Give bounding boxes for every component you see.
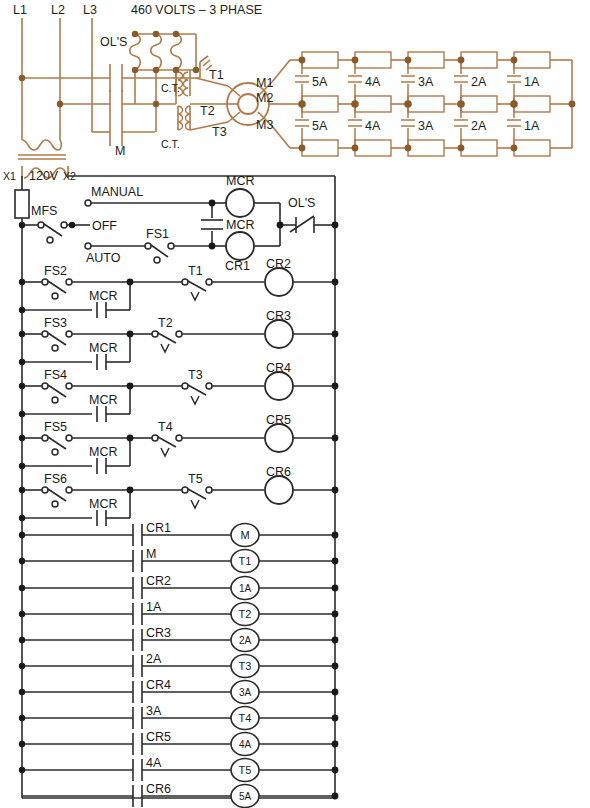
label-CR6-coil: CR6 — [266, 465, 291, 479]
label-120V: 120V — [29, 169, 59, 183]
label-M2: M2 — [256, 91, 273, 105]
label-M3: M3 — [256, 118, 273, 132]
label-out-contact-3: CR2 — [146, 574, 171, 588]
label-res-bot-5: 1A — [524, 119, 540, 133]
label-CR3-coil: CR3 — [266, 309, 291, 323]
coil-MCR — [212, 189, 280, 217]
label-res-bot-1: 5A — [312, 119, 328, 133]
label-CR5-coil: CR5 — [266, 413, 291, 427]
label-FS6: FS6 — [44, 472, 67, 486]
label-res-top-3: 3A — [418, 75, 434, 89]
label-L1: L1 — [13, 3, 27, 17]
label-seal-MCR-2: MCR — [89, 341, 117, 355]
label-MFS: MFS — [31, 204, 57, 218]
label-X1: X1 — [3, 170, 16, 182]
label-OLS-contact: OL'S — [288, 196, 315, 210]
label-T1: T1 — [209, 68, 224, 82]
label-out-contact-4: 1A — [146, 600, 162, 614]
label-out-coil-11: 5A — [239, 791, 252, 802]
label-T2: T2 — [200, 104, 215, 118]
label-out-coil-3: 1A — [239, 583, 252, 594]
label-out-contact-1: CR1 — [146, 521, 171, 535]
label-T3: T3 — [212, 125, 227, 139]
label-out-contact-7: CR4 — [146, 678, 171, 692]
label-res-top-1: 5A — [312, 75, 328, 89]
label-FS5: FS5 — [44, 420, 67, 434]
label-FS3: FS3 — [44, 316, 67, 330]
label-out-coil-5: 2A — [239, 635, 252, 646]
label-CR2-coil: CR2 — [266, 257, 291, 271]
label-seal-MCR-1: MCR — [89, 289, 117, 303]
overload-heaters — [130, 34, 182, 70]
label-T5-contact: T5 — [188, 472, 203, 486]
label-MANUAL: MANUAL — [91, 185, 143, 199]
label-out-coil-9: 4A — [239, 739, 252, 750]
label-seal-MCR-5: MCR — [89, 497, 117, 511]
label-FS4: FS4 — [44, 368, 67, 382]
label-L2: L2 — [51, 3, 65, 17]
label-T3-contact: T3 — [188, 368, 203, 382]
label-M1: M1 — [256, 76, 273, 90]
label-T2-contact: T2 — [158, 316, 173, 330]
label-out-coil-4: T2 — [239, 608, 252, 620]
label-out-contact-11: CR6 — [146, 782, 171, 796]
schematic-sheet: L1 L2 L3 460 VOLTS – 3 PHASE OL'S M C.T.… — [0, 0, 590, 808]
label-out-contact-9: CR5 — [146, 730, 171, 744]
contact-OLS — [280, 216, 335, 233]
label-out-coil-7: 3A — [239, 687, 252, 698]
label-overloads: OL'S — [100, 35, 127, 49]
label-res-top-5: 1A — [524, 75, 540, 89]
label-ct-2: C.T. — [161, 138, 180, 150]
label-out-coil-8: T4 — [239, 712, 252, 724]
label-res-bot-4: 2A — [471, 119, 487, 133]
label-out-contact-2: M — [146, 547, 156, 561]
label-out-coil-2: T1 — [239, 555, 252, 567]
label-CR1-coil: CR1 — [225, 259, 250, 273]
label-seal-MCR-3: MCR — [89, 393, 117, 407]
label-res-top-2: 4A — [365, 75, 381, 89]
current-transformer-2 — [178, 106, 190, 130]
motor-M3-run — [272, 126, 290, 148]
control-fuse — [15, 190, 29, 218]
label-out-contact-8: 3A — [146, 704, 162, 718]
switch-MFS[interactable] — [22, 222, 90, 243]
label-res-bot-3: 3A — [418, 119, 434, 133]
resistor-bank — [290, 52, 572, 156]
label-supply-voltage: 460 VOLTS – 3 PHASE — [131, 3, 262, 17]
contact-MCR-top — [201, 203, 223, 246]
rung-FS6 — [22, 476, 335, 526]
label-T4-contact: T4 — [158, 420, 173, 434]
label-T1-contact: T1 — [188, 264, 203, 278]
output-rungs — [22, 524, 335, 808]
label-FS2: FS2 — [44, 264, 67, 278]
label-out-contact-10: 4A — [146, 756, 162, 770]
label-out-contact-5: CR3 — [146, 626, 171, 640]
label-out-coil-10: T5 — [239, 764, 252, 776]
switch-FS1[interactable] — [145, 243, 212, 263]
motor-M1-run — [272, 60, 290, 82]
coil-CR1 — [212, 232, 280, 260]
label-contactor-M: M — [115, 144, 125, 158]
label-seal-MCR-4: MCR — [89, 445, 117, 459]
label-AUTO: AUTO — [86, 251, 121, 265]
label-L3: L3 — [83, 3, 97, 17]
label-MCR-contact: MCR — [226, 218, 254, 232]
label-CR4-coil: CR4 — [266, 361, 291, 375]
label-out-coil-6: T3 — [239, 660, 252, 672]
label-res-bot-2: 4A — [365, 119, 381, 133]
ladder-diagram-svg: L1 L2 L3 460 VOLTS – 3 PHASE OL'S M C.T.… — [0, 0, 590, 808]
label-res-top-4: 2A — [471, 75, 487, 89]
label-out-contact-6: 2A — [146, 652, 162, 666]
label-ct-1: C.T. — [161, 82, 180, 94]
label-out-coil-1: M — [240, 529, 249, 541]
label-MCR-coil: MCR — [226, 174, 254, 188]
label-OFF: OFF — [92, 219, 117, 233]
label-FS1: FS1 — [146, 227, 169, 241]
